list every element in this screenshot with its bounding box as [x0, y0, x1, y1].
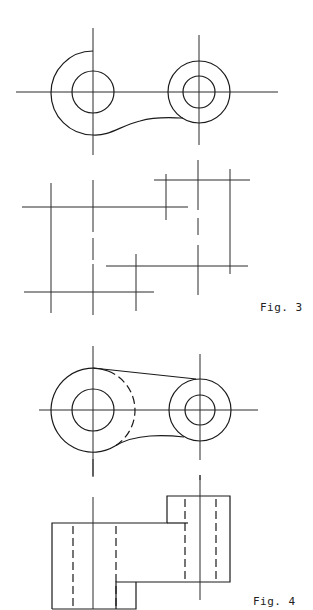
fig3-top-view: [16, 28, 278, 155]
fig3-label: Fig. 3: [260, 301, 303, 314]
fig4-web-top-line: [93, 368, 196, 379]
fig4-label: Fig. 4: [253, 595, 296, 608]
fig3-connecting-curve: [93, 118, 183, 135]
fig4-left-outer-arc-hidden: [108, 371, 135, 446]
fig4-top-view: [39, 346, 258, 480]
fig4-front-view: [52, 459, 230, 609]
fig4-front-outline: [52, 496, 230, 609]
fig3-front-view: [22, 160, 250, 315]
